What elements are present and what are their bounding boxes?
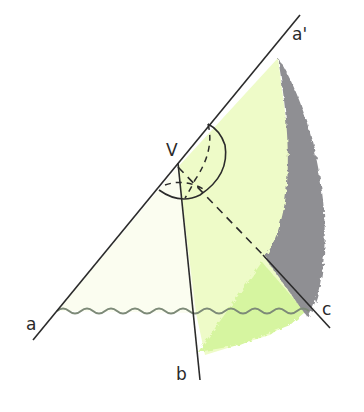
plane-ab-fill (57, 167, 196, 313)
label-a: a (26, 314, 36, 334)
label-b: b (176, 364, 187, 384)
label-c: c (322, 299, 331, 319)
label-a-prime: a' (292, 24, 307, 44)
cone-diagram: V a a' b c (0, 0, 364, 412)
label-vertex: V (166, 140, 178, 160)
